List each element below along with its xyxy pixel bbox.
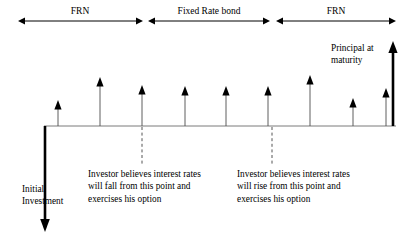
initial-investment-arrowhead [40,219,50,232]
phase-arrowhead-right-1 [263,17,270,24]
phase-arrowhead-left-1 [148,17,155,24]
callout-line: will fall from this point and [88,180,201,192]
coupon-arrowhead-7 [306,75,313,85]
phase-arrowhead-left-2 [276,17,283,24]
coupon-arrowhead-6 [264,86,271,96]
initial-investment-line-1: Initial [22,183,63,195]
coupon-arrowhead-2 [96,77,103,87]
phase-arrows-group [18,17,396,24]
phase-label-frn-1: FRN [71,7,89,17]
coupon-arrowhead-5 [222,86,229,96]
principal-label-line-1: Principal at [331,42,374,54]
phase-label-frn-2: FRN [327,7,345,17]
coupon-arrowhead-9 [382,88,389,98]
phase-arrowhead-right-0 [136,17,143,24]
coupon-arrowhead-8 [349,98,356,108]
callout-rates-fall-text: Investor believes interest rates will fa… [88,168,201,205]
coupon-arrowhead-4 [181,86,188,96]
coupon-arrowhead-1 [54,100,61,110]
phase-arrowhead-right-2 [389,17,396,24]
principal-label-line-2: maturity [331,54,374,66]
phase-label-fixed-rate-bond: Fixed Rate bond [178,7,241,17]
phase-arrowhead-left-0 [18,17,25,24]
callout-connector-group [142,127,272,166]
callout-line: will rise from this point and [237,180,350,192]
callout-line: exercises his option [237,193,350,205]
principal-arrow-group [388,41,397,126]
diagram-canvas: FRN Fixed Rate bond FRN Principal at mat… [0,0,408,242]
callout-rates-rise-text: Investor believes interest rates will ri… [237,168,350,205]
principal-arrowhead [388,41,397,53]
initial-investment-line-2: Investment [22,195,63,207]
callout-line: Investor believes interest rates [237,168,350,180]
initial-investment-group [40,126,50,232]
coupon-arrowhead-3 [138,85,145,95]
coupon-arrows-group [54,75,389,126]
initial-investment-label: Initial Investment [22,183,63,208]
callout-line: Investor believes interest rates [88,168,201,180]
principal-at-maturity-label: Principal at maturity [331,42,374,67]
callout-line: exercises his option [88,193,201,205]
